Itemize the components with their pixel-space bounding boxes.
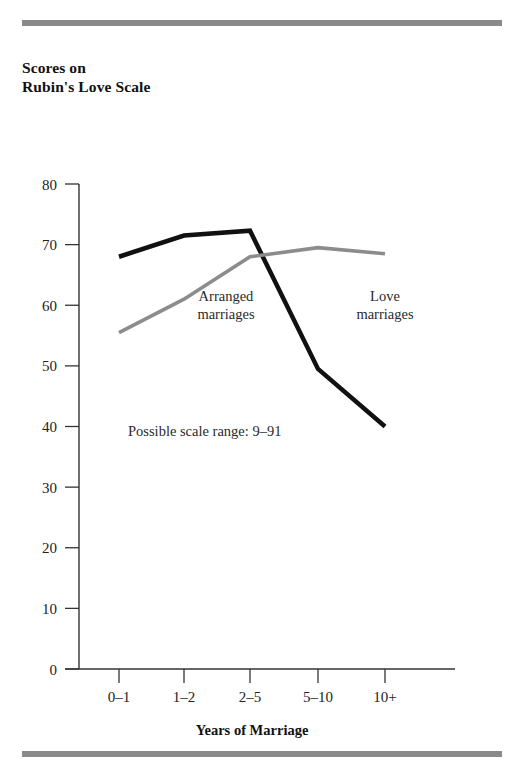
series-line-love-marriages <box>119 231 385 427</box>
y-axis-tick-label: 60 <box>42 298 57 314</box>
y-axis-tick-label: 40 <box>42 419 57 435</box>
annotation-love-marriages: Love marriages <box>330 287 440 323</box>
x-axis-tick-label: 5–10 <box>303 689 333 705</box>
x-axis-tick-label: 0–1 <box>108 689 131 705</box>
figure-page: Scores on Rubin's Love Scale 0–11–22–55–… <box>0 0 524 777</box>
x-axis-tick-label: 2–5 <box>239 689 262 705</box>
x-axis-tick-label: 10+ <box>373 689 396 705</box>
x-axis-title: Years of Marriage <box>196 722 309 738</box>
y-axis-tick-label: 70 <box>42 237 57 253</box>
x-axis-labels: 0–11–22–55–1010+ <box>108 689 397 705</box>
y-axis-labels: 01020304050607080 <box>42 177 57 678</box>
y-axis-tick-label: 20 <box>42 540 57 556</box>
annotation-arranged-marriages: Arranged marriages <box>166 287 286 323</box>
y-axis-tick-label: 80 <box>42 177 57 193</box>
y-axis-tick-label: 0 <box>50 662 58 678</box>
plot-area: 0–11–22–55–1010+ 01020304050607080 Years… <box>0 0 524 777</box>
line-chart-svg: 0–11–22–55–1010+ 01020304050607080 Years… <box>0 0 524 777</box>
scale-range-note: Possible scale range: 9–91 <box>128 423 281 440</box>
y-axis-tick-label: 30 <box>42 480 57 496</box>
y-axis-tick-label: 50 <box>42 358 57 374</box>
data-series <box>119 231 385 427</box>
x-axis-tick-label: 1–2 <box>173 689 196 705</box>
y-axis-tick-label: 10 <box>42 601 57 617</box>
